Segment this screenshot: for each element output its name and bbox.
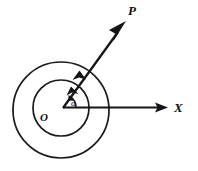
outer-arc-arrowhead <box>73 71 87 81</box>
p-vector-arrowhead <box>109 21 126 41</box>
angle-label: α <box>71 98 76 108</box>
force-vector-diagram: P X O α <box>0 0 198 171</box>
origin-label: O <box>40 111 48 123</box>
x-axis-label: X <box>173 100 183 115</box>
p-vector-label: P <box>128 3 137 18</box>
figure-container: P X O α <box>0 0 198 171</box>
outer-circle <box>13 62 109 158</box>
